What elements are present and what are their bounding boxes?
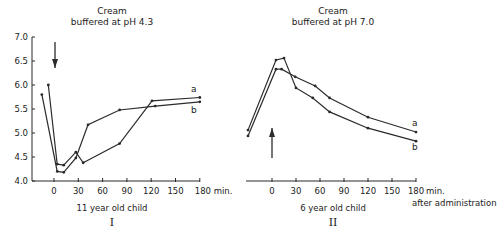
data-point <box>62 171 65 174</box>
data-point <box>74 157 77 160</box>
data-point <box>275 68 278 71</box>
y-tick-label: 4.0 <box>14 176 28 186</box>
data-point <box>367 127 370 130</box>
data-point <box>294 75 297 78</box>
x-tick-label: 30 <box>73 186 84 196</box>
data-point <box>415 131 418 134</box>
figure: Creambuffered at pH 4.30306090120150180 … <box>0 0 501 237</box>
x-tick-label: 120 <box>360 186 376 196</box>
data-point <box>295 86 298 89</box>
data-point <box>40 93 43 96</box>
chart-title-line1: Cream <box>97 6 127 16</box>
panel-subtitle: 11 year old child <box>76 203 147 213</box>
series-b-label: b <box>191 105 197 115</box>
data-point <box>328 97 331 100</box>
x-tick-label: 0 <box>269 186 274 196</box>
y-tick-label: 4.5 <box>14 152 28 162</box>
x-axis-label: after administration <box>412 198 497 208</box>
data-point <box>74 151 77 154</box>
data-point <box>56 170 59 173</box>
series-a-label: a <box>191 84 197 94</box>
y-tick-label: 5.5 <box>14 104 28 114</box>
x-tick-label: 90 <box>121 186 132 196</box>
y-tick-label: 5.0 <box>14 128 28 138</box>
series-b-label: b <box>412 142 418 152</box>
y-tick-label: 6.0 <box>14 80 28 90</box>
chart-title-line2: buffered at pH 7.0 <box>292 17 375 27</box>
x-tick-label: 150 <box>167 186 183 196</box>
series-b-line <box>42 95 200 173</box>
data-point <box>87 123 90 126</box>
y-tick-label: 6.5 <box>14 56 28 66</box>
y-tick-label: 7.0 <box>14 32 28 42</box>
data-point <box>367 116 370 119</box>
x-tick-label: 180 <box>408 186 424 196</box>
data-point <box>247 129 250 132</box>
data-point <box>198 96 201 99</box>
data-point <box>247 134 250 137</box>
x-tick-label: 120 <box>143 186 159 196</box>
data-point <box>311 97 314 100</box>
x-tick-label: 90 <box>339 186 350 196</box>
data-point <box>275 59 278 62</box>
data-point <box>154 105 157 108</box>
data-point <box>151 99 154 102</box>
data-point <box>280 68 283 71</box>
series-a-line <box>48 85 200 165</box>
chart-title-line2: buffered at pH 4.3 <box>71 17 153 27</box>
panel-number: II <box>329 216 338 229</box>
x-tick-label: 30 <box>291 186 302 196</box>
chart-title-line1: Cream <box>318 6 348 16</box>
data-point <box>118 142 121 145</box>
x-tick-label: 60 <box>315 186 326 196</box>
data-point <box>283 57 286 60</box>
data-point <box>82 161 85 164</box>
panel-ii-chart: Creambuffered at pH 7.00306090120150180m… <box>246 6 497 229</box>
series-a-line <box>248 69 416 136</box>
panel-i-chart: Creambuffered at pH 4.30306090120150180 … <box>14 6 232 229</box>
x-tick-label: 180 min. <box>195 186 233 196</box>
data-point <box>328 110 331 113</box>
x-axis-unit: min. <box>426 186 445 196</box>
data-point <box>47 84 50 87</box>
panel-subtitle: 6 year old child <box>300 203 366 213</box>
x-tick-label: 0 <box>51 186 56 196</box>
x-tick-label: 60 <box>97 186 108 196</box>
data-point <box>118 109 121 112</box>
data-point <box>62 164 65 167</box>
series-a-label: a <box>412 118 418 128</box>
x-tick-label: 150 <box>384 186 400 196</box>
panel-number: I <box>110 216 114 229</box>
data-point <box>198 100 201 103</box>
data-point <box>314 85 317 88</box>
